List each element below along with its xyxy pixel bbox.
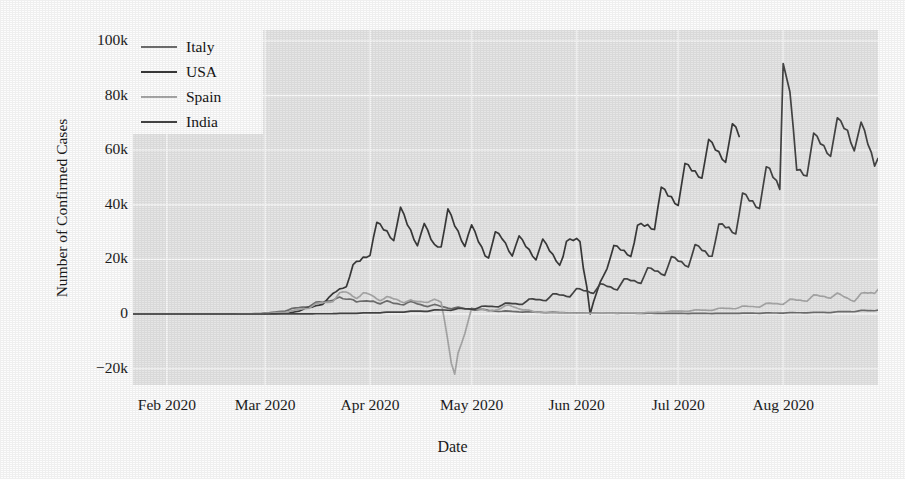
legend[interactable]: ItalyUSASpainIndia	[133, 30, 263, 134]
legend-label: India	[186, 114, 218, 130]
legend-item-spain[interactable]: Spain	[141, 84, 257, 109]
legend-label: Spain	[186, 89, 221, 105]
legend-swatch-spain-icon	[141, 96, 177, 98]
y-tick-label: 20k	[76, 250, 128, 265]
x-tick-label: Feb 2020	[112, 396, 222, 414]
y-axis-title: Number of Confirmed Cases	[53, 88, 71, 328]
x-tick-label: Jul 2020	[623, 396, 733, 414]
x-tick-label: May 2020	[417, 396, 527, 414]
legend-item-india[interactable]: India	[141, 109, 257, 134]
y-tick-label: 0	[76, 305, 128, 320]
y-tick-label: 100k	[76, 32, 128, 47]
x-tick-label: Jun 2020	[522, 396, 632, 414]
y-tick-label: −20k	[76, 360, 128, 375]
legend-swatch-italy-icon	[141, 46, 177, 48]
y-tick-label: 60k	[76, 141, 128, 156]
legend-label: Italy	[186, 39, 214, 55]
legend-item-italy[interactable]: Italy	[141, 34, 257, 59]
legend-swatch-india-icon	[141, 121, 177, 123]
x-axis-title: Date	[0, 438, 905, 456]
y-tick-label: 80k	[76, 87, 128, 102]
chart-figure: −20k020k40k60k80k100k Feb 2020Mar 2020Ap…	[0, 0, 905, 479]
y-tick-label: 40k	[76, 196, 128, 211]
series-line-usa	[133, 124, 739, 314]
x-tick-label: Apr 2020	[315, 396, 425, 414]
legend-swatch-usa-icon	[141, 71, 177, 73]
legend-label: USA	[186, 64, 217, 80]
y-axis-title-host: Number of Confirmed Cases	[28, 0, 52, 420]
legend-item-usa[interactable]: USA	[141, 59, 257, 84]
x-tick-label: Mar 2020	[210, 396, 320, 414]
series-line-spain	[133, 289, 878, 374]
x-tick-label: Aug 2020	[728, 396, 838, 414]
